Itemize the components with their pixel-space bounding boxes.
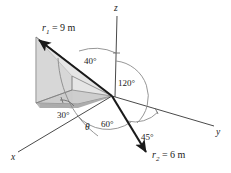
vector-r1-label: r1 = 9 m: [42, 23, 75, 36]
arc-40-degrees: [79, 48, 116, 53]
z-axis: [115, 16, 117, 97]
x-axis-label: x: [11, 153, 15, 163]
angle-theta-label: θ: [85, 123, 90, 133]
z-axis-label: z: [114, 4, 118, 14]
y-axis-label: y: [216, 128, 220, 138]
angle-120-label: 120°: [118, 79, 135, 88]
diagram-canvas: [0, 0, 231, 173]
arc-120-degrees: [116, 61, 148, 123]
vector-diagram-figure: r1 = 9 m r2 = 6 m z y x 40° 120° 60° 45°…: [0, 0, 231, 173]
angle-40-label: 40°: [84, 57, 97, 66]
angle-45-label: 45°: [141, 133, 154, 142]
angle-60-label: 60°: [101, 120, 114, 129]
vector-r2-label: r2 = 6 m: [152, 150, 185, 163]
angle-30-label: 30°: [57, 111, 70, 120]
